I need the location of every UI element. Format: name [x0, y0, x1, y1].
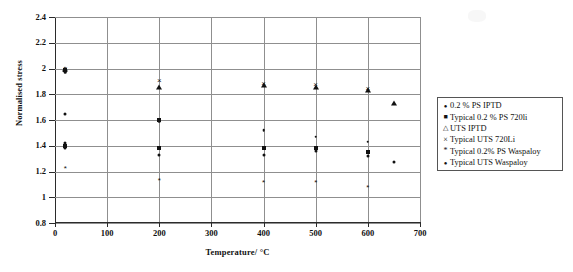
- x-tick-mark: [55, 222, 56, 227]
- x-tick-label: 600: [353, 229, 383, 238]
- gridline-horizontal: [55, 94, 420, 95]
- x-tick-label: 700: [405, 229, 435, 238]
- y-tick-mark: [49, 94, 55, 95]
- gridline-horizontal: [55, 197, 420, 198]
- legend-item-label: Typical 0.2% PS Waspaloy: [450, 147, 541, 156]
- x-tick-mark: [159, 222, 160, 227]
- x-tick-label: 200: [144, 229, 174, 238]
- x-tick-label: 400: [249, 229, 279, 238]
- gridline-horizontal: [55, 120, 420, 121]
- gridline-horizontal: [55, 69, 420, 70]
- gridline-horizontal: [55, 146, 420, 147]
- legend-item[interactable]: △ UTS IPTD: [441, 123, 560, 134]
- legend-marker-triangle: △: [441, 124, 450, 132]
- legend-item[interactable]: ● Typical UTS Waspaloy: [441, 157, 560, 168]
- y-tick-label: 0.8: [22, 219, 46, 228]
- data-point-circle: [158, 153, 161, 156]
- x-tick-label: 500: [301, 229, 331, 238]
- data-point-dot: [314, 135, 317, 138]
- y-tick-mark: [49, 17, 55, 18]
- y-tick-mark: [49, 120, 55, 121]
- scan-artifact: [468, 10, 486, 22]
- legend-item[interactable]: × Typical UTS 720Li: [441, 134, 560, 145]
- y-tick-mark: [49, 197, 55, 198]
- gridline-vertical: [316, 17, 317, 223]
- data-point-cross: [155, 77, 163, 85]
- data-point-square: [63, 144, 67, 148]
- x-tick-mark: [211, 222, 212, 227]
- data-point-circle: [64, 112, 67, 115]
- data-point-cross: [364, 85, 372, 93]
- y-tick-mark: [49, 43, 55, 44]
- x-tick-label: 0: [40, 229, 70, 238]
- y-tick-label: 2: [22, 64, 46, 73]
- legend-item-label: Typical 0.2 % PS 720li: [450, 113, 527, 122]
- data-point-star: [155, 177, 163, 185]
- data-point-triangle: [391, 101, 397, 106]
- data-point-star: [312, 179, 320, 187]
- y-tick-label: 2.2: [22, 38, 46, 47]
- y-tick-label: 1.8: [22, 90, 46, 99]
- legend-item-label: Typical UTS 720Li: [450, 135, 515, 144]
- data-point-cross: [312, 81, 320, 89]
- data-point-dot: [262, 129, 265, 132]
- chart-legend: ● 0.2 % PS IPTD ■ Typical 0.2 % PS 720li…: [437, 97, 563, 171]
- y-tick-mark: [49, 172, 55, 173]
- gridline-vertical: [211, 17, 212, 223]
- data-point-circle: [366, 155, 369, 158]
- gridline-vertical: [264, 17, 265, 223]
- x-tick-label: 300: [196, 229, 226, 238]
- chart-figure: 0.811.21.41.61.822.22.401002003004005006…: [0, 0, 573, 272]
- legend-marker-dot: ●: [441, 159, 450, 167]
- x-tick-mark: [107, 222, 108, 227]
- data-point-circle: [392, 161, 395, 164]
- data-point-star: [260, 179, 268, 187]
- y-tick-label: 1: [22, 193, 46, 202]
- data-point-dot: [64, 71, 67, 74]
- y-axis-title: Normalised stress: [14, 33, 24, 153]
- data-point-square: [366, 150, 370, 154]
- data-point-dot: [367, 141, 370, 144]
- legend-item-label: UTS IPTD: [450, 124, 487, 133]
- gridline-horizontal: [55, 223, 420, 224]
- gridline-vertical: [107, 17, 108, 223]
- y-tick-label: 1.2: [22, 167, 46, 176]
- data-point-star: [364, 184, 372, 192]
- y-tick-label: 1.4: [22, 141, 46, 150]
- x-tick-mark: [316, 222, 317, 227]
- legend-item[interactable]: ■ Typical 0.2 % PS 720li: [441, 111, 560, 122]
- gridline-horizontal: [55, 172, 420, 173]
- gridline-vertical: [420, 17, 421, 223]
- legend-item-label: Typical UTS Waspaloy: [450, 158, 528, 167]
- gridline-horizontal: [55, 43, 420, 44]
- data-point-square: [314, 146, 318, 150]
- data-point-cross: [260, 80, 268, 88]
- legend-marker-square: ■: [441, 113, 450, 121]
- x-tick-label: 100: [92, 229, 122, 238]
- legend-item[interactable]: ● 0.2 % PS IPTD: [441, 100, 560, 111]
- data-point-square: [262, 146, 266, 150]
- legend-item-label: 0.2 % PS IPTD: [450, 101, 502, 110]
- x-tick-mark: [420, 222, 421, 227]
- x-axis-title: Temperature/ °C: [55, 247, 420, 257]
- y-tick-label: 2.4: [22, 13, 46, 22]
- gridline-horizontal: [55, 17, 420, 18]
- data-point-star: [61, 165, 69, 173]
- legend-marker-cross: ×: [441, 136, 450, 144]
- data-point-dot: [158, 120, 161, 123]
- legend-marker-circle: ●: [441, 102, 450, 110]
- y-tick-mark: [49, 69, 55, 70]
- legend-marker-star: *: [441, 147, 450, 155]
- y-tick-mark: [49, 146, 55, 147]
- data-point-circle: [262, 153, 265, 156]
- x-tick-mark: [264, 222, 265, 227]
- y-tick-label: 1.6: [22, 116, 46, 125]
- x-tick-mark: [368, 222, 369, 227]
- data-point-square: [157, 146, 161, 150]
- legend-item[interactable]: * Typical 0.2% PS Waspaloy: [441, 146, 560, 157]
